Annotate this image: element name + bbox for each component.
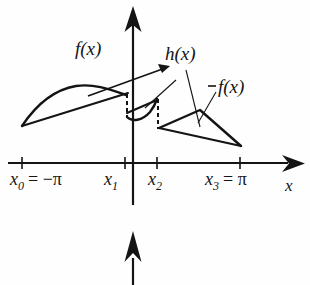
leader-h-to-curve <box>145 80 176 108</box>
tick-label-x3-base: x <box>205 169 213 189</box>
tick-label-x0-equals: = −π <box>28 169 62 189</box>
axes-group <box>8 6 305 285</box>
tick-label-x1-subscript: 1 <box>112 179 118 193</box>
math-figure-svg <box>0 0 310 285</box>
axis-label-x: x <box>285 177 293 194</box>
h-middle-branch-group <box>127 99 157 120</box>
tick-label-x2: x2 <box>148 170 162 192</box>
leader-f-left <box>88 67 168 96</box>
tick-label-x2-base: x <box>148 169 156 189</box>
leader-f-right <box>198 92 216 123</box>
lower-axis-arrowhead <box>125 231 142 262</box>
tick-label-x2-subscript: 2 <box>156 179 162 193</box>
label-f-right: f(x) <box>218 77 244 96</box>
label-h-middle: h(x) <box>165 44 196 63</box>
label-f-left: f(x) <box>75 39 101 58</box>
leader-f-left-arrowhead <box>158 64 170 73</box>
f-left-branch-group <box>22 85 128 126</box>
leader-lines-group <box>88 64 216 127</box>
f-right-branch-group <box>159 110 241 146</box>
tick-label-x1: x1 <box>104 170 118 192</box>
tick-label-x0-base: x <box>10 169 18 189</box>
tick-label-x0-subscript: 0 <box>18 179 24 193</box>
tick-label-x3: x3= π <box>205 170 247 192</box>
figure-canvas: f(x) h(x) f(x) x0= −π x1 x2 x3= π x <box>0 0 310 285</box>
f-left-chord <box>22 93 128 126</box>
tick-label-x3-subscript: 3 <box>213 179 219 193</box>
tick-label-x1-base: x <box>104 169 112 189</box>
tick-label-x0: x0= −π <box>10 170 62 192</box>
leader-h-middle <box>186 70 200 127</box>
tick-label-x3-equals: = π <box>223 169 247 189</box>
f-right-chord <box>159 128 241 146</box>
f-left-curve <box>22 85 126 126</box>
f-right-peak <box>159 110 241 146</box>
